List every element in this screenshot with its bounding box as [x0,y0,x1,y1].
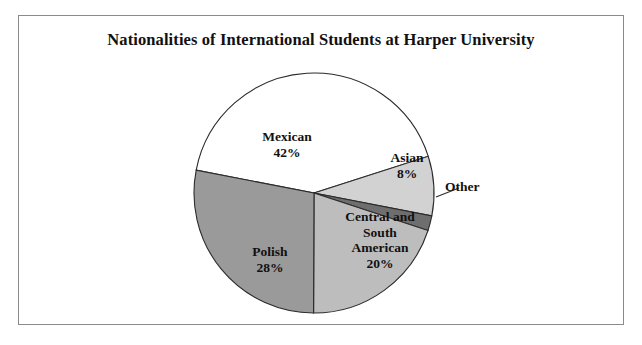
other-leader-line [436,188,459,197]
pie-slices [194,73,434,313]
pie-slice-polish[interactable] [194,170,314,313]
chart-frame: Nationalities of International Students … [18,15,624,325]
pie-svg [19,16,625,326]
pie-chart: Mexican 42% Asian 8% Other Central and S… [19,16,625,326]
